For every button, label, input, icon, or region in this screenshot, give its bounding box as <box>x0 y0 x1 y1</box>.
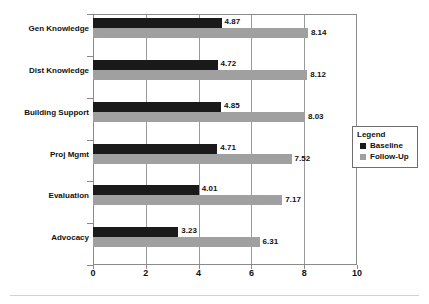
bottom-divider <box>10 295 419 296</box>
bar-value-label: 4.71 <box>220 143 236 153</box>
ytick-4 <box>87 181 93 182</box>
legend-label-baseline: Baseline <box>370 140 403 151</box>
legend-swatch-baseline <box>360 143 366 149</box>
bar-value-label: 8.03 <box>308 112 324 122</box>
category-label-0: Gen Knowledge <box>5 24 89 33</box>
gridline-8 <box>304 15 305 264</box>
chart-legend: Legend Baseline Follow-Up <box>352 126 418 168</box>
gridline-4 <box>199 15 200 264</box>
bar-value-label: 4.72 <box>221 59 237 69</box>
legend-swatch-followup <box>360 154 366 160</box>
ytick-2 <box>87 98 93 99</box>
xtick-label-6: 6 <box>238 268 264 278</box>
bar-value-label: 8.12 <box>310 70 326 80</box>
ytick-3 <box>87 140 93 141</box>
bar-value-label: 3.23 <box>181 226 197 236</box>
bar-followup-2 <box>93 112 305 122</box>
ytick-1 <box>87 56 93 57</box>
bar-baseline-5 <box>93 227 178 237</box>
xtick-label-4: 4 <box>186 268 212 278</box>
bar-baseline-0 <box>93 18 222 28</box>
bar-value-label: 7.17 <box>285 195 301 205</box>
bar-chart: 02468104.878.14Gen Knowledge4.728.12Dist… <box>0 0 429 304</box>
bar-value-label: 4.01 <box>202 184 218 194</box>
bar-value-label: 8.14 <box>311 28 327 38</box>
legend-label-followup: Follow-Up <box>370 151 409 162</box>
category-label-1: Dist Knowledge <box>5 66 89 75</box>
bar-followup-3 <box>93 154 292 164</box>
xtick-label-0: 0 <box>80 268 106 278</box>
bar-followup-0 <box>93 28 308 38</box>
gridline-6 <box>251 15 252 264</box>
bar-baseline-4 <box>93 185 199 195</box>
ytick-0 <box>87 14 93 15</box>
category-label-2: Building Support <box>5 108 89 117</box>
bar-baseline-1 <box>93 60 218 70</box>
ytick-5 <box>87 223 93 224</box>
xtick-label-8: 8 <box>291 268 317 278</box>
bar-value-label: 4.87 <box>225 17 241 27</box>
category-label-3: Proj Mgmt <box>5 150 89 159</box>
legend-item-baseline: Baseline <box>360 140 417 151</box>
ytick-bottom <box>87 265 93 266</box>
bar-value-label: 6.31 <box>263 237 279 247</box>
category-label-4: Evaluation <box>5 191 89 200</box>
bar-followup-4 <box>93 195 282 205</box>
bar-followup-1 <box>93 70 307 80</box>
bar-baseline-2 <box>93 102 221 112</box>
legend-title: Legend <box>357 129 417 140</box>
bar-baseline-3 <box>93 144 217 154</box>
bar-followup-5 <box>93 237 260 247</box>
xtick-label-10: 10 <box>344 268 370 278</box>
legend-item-followup: Follow-Up <box>360 151 417 162</box>
bar-value-label: 4.85 <box>224 101 240 111</box>
xtick-label-2: 2 <box>133 268 159 278</box>
bar-value-label: 7.52 <box>295 154 311 164</box>
category-label-5: Advocacy <box>5 233 89 242</box>
